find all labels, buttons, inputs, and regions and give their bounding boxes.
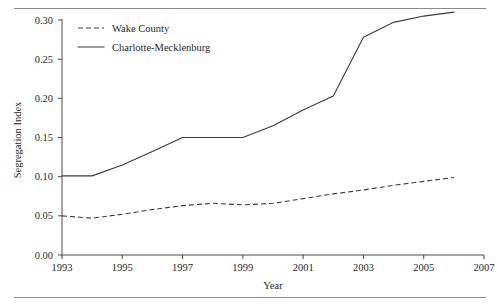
y-axis-title: Segregation Index: [12, 101, 23, 178]
y-axis-tick-label: 0.05: [35, 210, 53, 221]
legend-label-charlotte-mecklenburg: Charlotte-Mecklenburg: [112, 42, 211, 53]
axes-group: [58, 19, 484, 259]
y-axis-tick-label: 0.20: [35, 93, 53, 104]
legend: Wake County Charlotte-Mecklenburg: [78, 23, 211, 53]
x-axis-tick-label: 2005: [413, 262, 434, 273]
y-axis-ticks: [58, 20, 62, 255]
x-axis-tick-label: 1997: [172, 262, 193, 273]
x-axis-title: Year: [263, 280, 283, 291]
y-axis-tick-label: 0.15: [35, 132, 53, 143]
legend-label-wake-county: Wake County: [112, 23, 170, 34]
series-line-charlotte-mecklenburg: [62, 12, 454, 176]
y-axis-tick-label: 0.30: [35, 15, 53, 26]
line-chart: 0.000.050.100.150.200.250.30 19931995199…: [0, 0, 500, 306]
x-axis-tick-labels: 19931995199719992001200320052007: [52, 262, 495, 273]
x-axis-tick-label: 2007: [474, 262, 495, 273]
y-axis-tick-label: 0.25: [35, 54, 53, 65]
y-axis-tick-label: 0.10: [35, 171, 53, 182]
x-axis-tick-label: 1995: [112, 262, 133, 273]
series-line-wake-county: [62, 177, 454, 218]
x-axis-tick-label: 1993: [52, 262, 73, 273]
x-axis-tick-label: 2001: [293, 262, 314, 273]
x-axis-tick-label: 1999: [232, 262, 253, 273]
x-axis-tick-label: 2003: [353, 262, 374, 273]
figure-container: 0.000.050.100.150.200.250.30 19931995199…: [0, 0, 500, 306]
y-axis-tick-labels: 0.000.050.100.150.200.250.30: [35, 15, 53, 261]
y-axis-tick-label: 0.00: [35, 250, 53, 261]
x-axis-ticks: [62, 255, 484, 259]
